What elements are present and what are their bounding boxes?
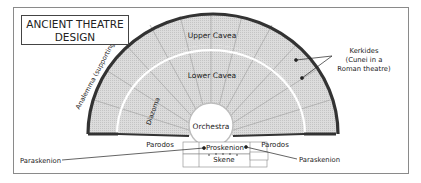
label-skene: Skene	[213, 156, 234, 164]
label-paraskenion-right: Paraskenion	[299, 156, 340, 164]
label-parodos-right: Parodos	[261, 141, 289, 149]
label-kerkides-2: (Cunei in a	[346, 56, 383, 64]
label-kerkides-3: Roman theatre)	[337, 65, 391, 73]
title-box: ANCIENT THEATRE DESIGN	[21, 15, 129, 45]
label-paraskenion-left: Paraskenion	[20, 157, 61, 165]
label-parodos-left: Parodos	[146, 141, 174, 149]
label-kerkides-1: Kerkides	[350, 47, 379, 55]
title-line-1: ANCIENT THEATRE	[22, 18, 128, 31]
paraskenion-left-leader	[62, 148, 204, 160]
label-proskenion: Proskenion	[206, 144, 244, 152]
label-lower-cavea: Lower Cavea	[188, 71, 236, 80]
label-upper-cavea: Upper Cavea	[188, 31, 237, 40]
title-line-2: DESIGN	[22, 31, 128, 44]
label-orchestra: Orchestra	[193, 122, 230, 131]
